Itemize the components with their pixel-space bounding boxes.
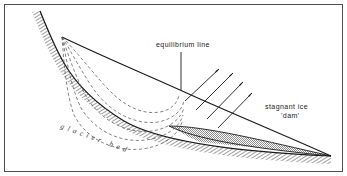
glacier-diagram-svg: equilibrium line stagnant ice 'dam' glac… [0,0,347,176]
equilibrium-line-label: equilibrium line [156,41,210,49]
stagnant-ice-label-line1: stagnant ice [265,103,308,111]
stagnant-ice-label-line2: 'dam' [281,112,300,119]
figure-frame [5,5,343,172]
glacier-diagram-figure: equilibrium line stagnant ice 'dam' glac… [0,0,347,176]
